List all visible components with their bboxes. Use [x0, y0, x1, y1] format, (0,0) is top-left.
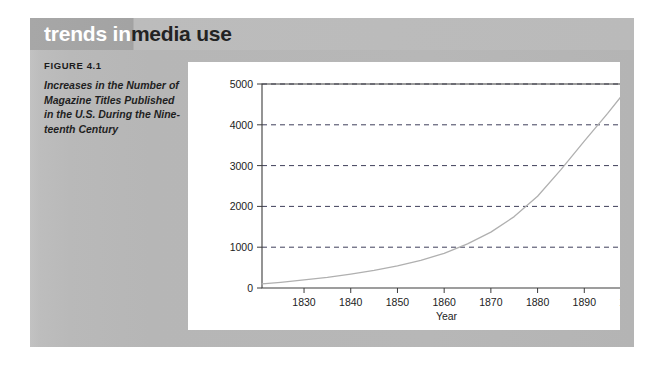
x-tick-label: 1850	[386, 296, 410, 308]
x-axis-tick-labels: 18301840185018601870188018901900	[292, 296, 620, 308]
x-tick-label: 1840	[339, 296, 363, 308]
y-tick-label: 1000	[230, 241, 254, 253]
figure-caption-text: Increases in the Number of Magazine Titl…	[44, 78, 196, 136]
figure-caption-block: FIGURE 4.1 Increases in the Number of Ma…	[44, 60, 196, 136]
x-axis-title: Year	[436, 310, 458, 322]
gridlines-group	[262, 84, 620, 247]
x-tick-label: 1890	[573, 296, 597, 308]
y-tick-label: 3000	[230, 160, 254, 172]
title-secondary-text: media use	[131, 18, 232, 50]
plot-frame	[262, 84, 620, 288]
trends-title-band: trends in media use	[30, 18, 634, 50]
figure-number-label: FIGURE 4.1	[44, 60, 196, 71]
x-tick-label: 1870	[479, 296, 503, 308]
caption-line: teenth Century	[44, 122, 196, 137]
axis-frame	[262, 84, 620, 288]
x-tick-label: 1830	[292, 296, 316, 308]
caption-line: Magazine Titles Published	[44, 93, 196, 108]
x-tick-label: 1900	[619, 296, 620, 308]
y-axis-tick-labels: 010002000300040005000	[230, 78, 254, 294]
caption-line: in the U.S. During the Nine-	[44, 107, 196, 122]
y-tick-label: 5000	[230, 78, 254, 90]
magazine-titles-curve	[262, 84, 620, 284]
tickmarks-group	[257, 84, 620, 293]
caption-line: Increases in the Number of	[44, 78, 196, 93]
y-tick-label: 2000	[230, 200, 254, 212]
x-tick-label: 1880	[526, 296, 550, 308]
magazine-titles-line-chart: 010002000300040005000 183018401850186018…	[188, 62, 620, 330]
x-tick-label: 1860	[432, 296, 456, 308]
title-row: trends in media use	[44, 18, 232, 50]
y-tick-label: 4000	[230, 119, 254, 131]
y-tick-label: 0	[247, 282, 253, 294]
chart-plot-area: 010002000300040005000 183018401850186018…	[188, 62, 620, 330]
figure-panel: trends in media use FIGURE 4.1 Increases…	[30, 18, 634, 347]
title-primary-text: trends in	[44, 18, 131, 50]
chart-card: 010002000300040005000 183018401850186018…	[188, 62, 620, 330]
